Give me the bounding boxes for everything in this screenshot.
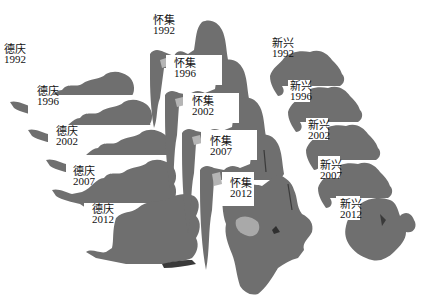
- deqing-2007-label: 德庆 2007: [73, 166, 95, 186]
- deqing-2002-label: 德庆 2002: [56, 126, 78, 146]
- map-figure: 德庆 1992 德庆 1996 德庆 2002 德庆 2007: [0, 0, 428, 303]
- xinxing-1992-label: 新兴 1992: [272, 38, 294, 58]
- huaiji-2007-label: 怀集 2007: [210, 136, 232, 156]
- huaiji-2012-label: 怀集 2012: [230, 178, 252, 198]
- deqing-1992-label: 德庆 1992: [4, 44, 26, 64]
- xinxing-2007-label: 新兴 2007: [320, 160, 342, 180]
- huaiji-1996-label: 怀集 1996: [174, 58, 196, 78]
- huaiji-2002-label: 怀集 2002: [192, 96, 214, 116]
- xinxing-2002-label: 新兴 2002: [308, 120, 330, 140]
- huaiji-1992-label: 怀集 1992: [153, 15, 175, 35]
- deqing-1996-label: 德庆 1996: [37, 86, 59, 106]
- deqing-2012-label: 德庆 2012: [92, 204, 114, 224]
- xinxing-1996-label: 新兴 1996: [290, 81, 312, 101]
- xinxing-2012-label: 新兴 2012: [340, 199, 362, 219]
